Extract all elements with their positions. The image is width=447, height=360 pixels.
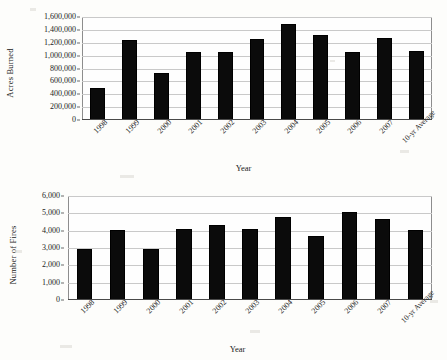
- y-axis-tick-label: 1,000,000: [44, 52, 76, 60]
- y-axis-tick-mark: [77, 29, 80, 30]
- x-axis-tick-label: 2001: [178, 298, 195, 315]
- x-axis-tick-label: 2005: [310, 298, 327, 315]
- y-axis-tick-mark: [61, 265, 64, 266]
- bar: [90, 88, 105, 121]
- y-axis-tick-mark: [61, 248, 64, 249]
- bar: [377, 38, 392, 120]
- bar: [281, 24, 296, 120]
- y-axis-tick-mark: [61, 196, 64, 197]
- x-axis-tick-label: 2000: [145, 298, 162, 315]
- bar: [218, 52, 233, 120]
- x-axis-tick-label: 2002: [211, 298, 228, 315]
- scan-artifact: [120, 175, 134, 178]
- x-axis-tick-slot: 2000: [134, 302, 167, 348]
- bar: [143, 249, 159, 300]
- bar: [313, 35, 328, 120]
- y-axis-tick-mark: [61, 282, 64, 283]
- x-axis-tick-label: 2007: [379, 118, 396, 135]
- number-of-fires-y-axis-ticks: 01,0002,0003,0004,0005,0006,000: [20, 196, 64, 300]
- y-axis-tick-mark: [77, 68, 80, 69]
- y-axis-tick-label: 800,000: [50, 65, 76, 73]
- bar: [186, 52, 201, 120]
- x-axis-tick-label: 2004: [283, 118, 300, 135]
- x-axis-tick-label: 2003: [251, 118, 268, 135]
- x-axis-tick-label: 2004: [277, 298, 294, 315]
- x-axis-tick-slot: 2004: [267, 302, 300, 348]
- bar-slot: [200, 196, 233, 300]
- x-axis-tick-label: 2000: [156, 118, 173, 135]
- x-axis-tick-slot: 2002: [209, 122, 241, 168]
- y-axis-tick-label: 600,000: [50, 77, 76, 85]
- x-axis-tick-slot: 10-yr Average: [399, 302, 432, 348]
- bar-slot: [400, 17, 432, 120]
- y-axis-tick-label: 5,000: [42, 209, 60, 217]
- bar-slot: [134, 196, 167, 300]
- y-axis-tick-label: 0: [72, 116, 76, 124]
- bar-slot: [333, 196, 366, 300]
- acres-burned-bars: [82, 17, 432, 120]
- x-axis-tick-slot: 2001: [167, 302, 200, 348]
- bar-slot: [82, 17, 114, 120]
- bar-slot: [68, 196, 101, 300]
- y-axis-tick-label: 3,000: [42, 244, 60, 252]
- bar: [176, 229, 192, 300]
- y-axis-tick-mark: [77, 81, 80, 82]
- acres-burned-plot-area: [82, 17, 432, 120]
- bar: [275, 217, 291, 300]
- y-axis-tick-mark: [77, 55, 80, 56]
- bar-slot: [337, 17, 369, 120]
- bar-slot: [167, 196, 200, 300]
- scan-artifact: [400, 150, 409, 153]
- bar: [209, 225, 225, 300]
- acres-burned-y-axis-ticks: 0200,000400,000600,000800,0001,000,0001,…: [28, 17, 80, 120]
- x-axis-tick-slot: 2007: [366, 302, 399, 348]
- bar-slot: [267, 196, 300, 300]
- y-axis-tick-label: 1,200,000: [44, 39, 76, 47]
- x-axis-tick-slot: 2000: [146, 122, 178, 168]
- x-axis-tick-slot: 2003: [233, 302, 266, 348]
- x-axis-tick-slot: 2002: [200, 302, 233, 348]
- y-axis-tick-mark: [77, 42, 80, 43]
- bar-slot: [177, 17, 209, 120]
- y-axis-tick-mark: [61, 300, 64, 301]
- bar-slot: [146, 17, 178, 120]
- bar: [375, 219, 391, 300]
- y-axis-tick-label: 400,000: [50, 90, 76, 98]
- bar: [342, 212, 358, 300]
- bar-slot: [305, 17, 337, 120]
- number-of-fires-plot-area: [68, 196, 432, 300]
- x-axis-tick-slot: 1999: [101, 302, 134, 348]
- scan-artifact: [15, 250, 22, 253]
- x-axis-tick-slot: 2005: [305, 122, 337, 168]
- x-axis-tick-label: 2006: [344, 298, 361, 315]
- x-axis-tick-label: 1999: [124, 118, 141, 135]
- y-axis-tick-label: 2,000: [42, 261, 60, 269]
- bar-slot: [233, 196, 266, 300]
- y-axis-tick-mark: [77, 17, 80, 18]
- x-axis-tick-label: 2002: [220, 118, 237, 135]
- scan-artifact: [330, 60, 335, 62]
- bar-slot: [101, 196, 134, 300]
- number-of-fires-bars: [68, 196, 432, 300]
- scan-artifact: [430, 300, 438, 303]
- x-axis-tick-slot: 10-yr Average: [400, 122, 432, 168]
- y-axis-tick-mark: [77, 94, 80, 95]
- x-axis-tick-label: 1999: [112, 298, 129, 315]
- acres-burned-chart: Acres Burned 0200,000400,000600,000800,0…: [0, 0, 447, 180]
- x-axis-tick-slot: 2007: [368, 122, 400, 168]
- x-axis-tick-label: 2003: [244, 298, 261, 315]
- x-axis-tick-slot: 2003: [241, 122, 273, 168]
- bar: [110, 230, 126, 300]
- x-axis-tick-slot: 2001: [177, 122, 209, 168]
- bar: [154, 73, 169, 120]
- x-axis-tick-slot: 1998: [68, 302, 101, 348]
- number-of-fires-y-axis-title: Number of Fires: [8, 222, 18, 288]
- number-of-fires-x-axis-title: Year: [14, 344, 447, 354]
- bar-slot: [114, 17, 146, 120]
- bar-slot: [241, 17, 273, 120]
- x-axis-tick-slot: 1999: [114, 122, 146, 168]
- scan-artifact: [30, 8, 36, 11]
- bar: [242, 229, 258, 300]
- x-axis-tick-slot: 1998: [82, 122, 114, 168]
- bar: [408, 230, 424, 300]
